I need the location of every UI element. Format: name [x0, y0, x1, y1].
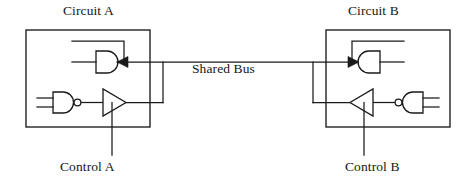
circuit-b-bus-receive-arrowhead	[348, 57, 359, 68]
control-a-label: Control A	[60, 160, 115, 174]
circuit-a-label: Circuit A	[63, 4, 114, 18]
shared-bus-label: Shared Bus	[192, 62, 255, 76]
diagram-canvas	[0, 0, 469, 181]
circuit-diagram: Circuit A Circuit B Shared Bus Control A…	[0, 0, 469, 181]
circuit-b-block-outline	[326, 30, 450, 127]
circuit-b-nand-gate-bubble	[395, 99, 402, 106]
circuit-a-nand-gate-body	[53, 92, 74, 113]
circuit-b-and-gate-body	[358, 51, 380, 73]
circuit-b-buffer-triangle	[350, 89, 373, 116]
circuit-b-label: Circuit B	[348, 4, 399, 18]
circuit-a-nand-gate-bubble	[74, 99, 81, 106]
control-b-label: Control B	[345, 160, 400, 174]
circuit-a-and-gate-body	[96, 51, 118, 73]
circuit-a-buffer-triangle	[103, 89, 126, 116]
circuit-b-nand-gate-body	[403, 92, 423, 113]
circuit-a-block-outline	[26, 30, 150, 127]
